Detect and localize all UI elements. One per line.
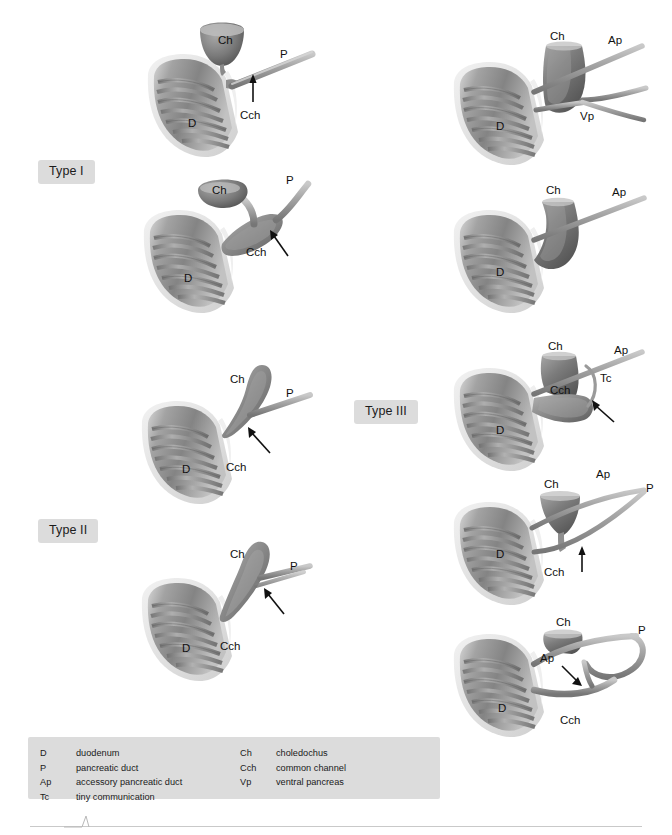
duodenum-illustration bbox=[148, 54, 238, 157]
label-cch: Cch bbox=[240, 109, 260, 121]
legend-item: Dduodenum bbox=[40, 746, 182, 761]
type-badge-3: Type III bbox=[354, 400, 418, 424]
panel-type3-c: Ch Ap Tc Cch D bbox=[446, 336, 661, 468]
pointer-arrow bbox=[270, 230, 288, 256]
panel-type2-b: Ch P Cch D bbox=[134, 528, 329, 683]
label-d: D bbox=[496, 266, 504, 278]
legend-item: Chcholedochus bbox=[240, 746, 346, 761]
label-d: D bbox=[496, 424, 504, 436]
label-cch: Cch bbox=[550, 384, 570, 396]
anatomical-figure: Type I Type II Type III bbox=[0, 0, 672, 835]
pancreatic-duct bbox=[276, 184, 308, 220]
caret-mark-icon bbox=[62, 814, 102, 828]
label-ap: Ap bbox=[614, 344, 628, 356]
label-p: P bbox=[286, 387, 294, 399]
duodenum-illustration bbox=[454, 368, 544, 471]
legend-abbr: Vp bbox=[240, 775, 276, 790]
label-ch: Ch bbox=[548, 340, 563, 352]
label-ap: Ap bbox=[596, 468, 610, 480]
pointer-arrow bbox=[248, 427, 270, 453]
panel-type3-e: Ch P Ap Cch D bbox=[446, 606, 668, 734]
legend-column-left: Dduodenum Ppancreatic duct Apaccessory p… bbox=[40, 746, 182, 804]
legend-item: Tctiny communication bbox=[40, 790, 182, 805]
legend-item: Apaccessory pancreatic duct bbox=[40, 775, 182, 790]
duodenum-illustration bbox=[144, 210, 234, 313]
legend-abbr: P bbox=[40, 761, 76, 776]
legend-term: choledochus bbox=[276, 746, 328, 761]
label-d: D bbox=[182, 463, 190, 475]
label-cch: Cch bbox=[544, 566, 564, 578]
label-ch: Ch bbox=[544, 478, 559, 490]
legend-item: Cchcommon channel bbox=[240, 761, 346, 776]
legend-panel: Dduodenum Ppancreatic duct Apaccessory p… bbox=[28, 737, 440, 799]
pointer-arrow bbox=[264, 588, 284, 614]
duodenum-illustration bbox=[142, 401, 232, 504]
legend-item: Vpventral pancreas bbox=[240, 775, 346, 790]
panel-type2-a: Ch P Cch D bbox=[134, 355, 329, 505]
label-p: P bbox=[638, 624, 646, 636]
label-ch: Ch bbox=[556, 616, 571, 628]
duodenum-illustration bbox=[454, 634, 544, 737]
label-vp: Vp bbox=[580, 110, 594, 122]
label-d: D bbox=[188, 117, 196, 129]
legend-term: common channel bbox=[276, 761, 346, 776]
label-p: P bbox=[290, 560, 298, 572]
label-cch: Cch bbox=[246, 246, 266, 258]
legend-term: duodenum bbox=[76, 746, 119, 761]
legend-abbr: Tc bbox=[40, 790, 76, 805]
label-ch: Ch bbox=[218, 34, 233, 46]
label-d: D bbox=[496, 120, 504, 132]
label-cch: Cch bbox=[560, 714, 580, 726]
label-ap: Ap bbox=[612, 186, 626, 198]
legend-term: pancreatic duct bbox=[76, 761, 138, 776]
panel-type1-b: Ch P Cch D bbox=[136, 172, 326, 317]
legend-item: Ppancreatic duct bbox=[40, 761, 182, 776]
label-ch: Ch bbox=[230, 548, 245, 560]
label-ch: Ch bbox=[546, 184, 561, 196]
legend-abbr: Ap bbox=[40, 775, 76, 790]
pancreatic-duct bbox=[232, 54, 312, 86]
legend-abbr: D bbox=[40, 746, 76, 761]
panel-type3-b: Ch Ap D bbox=[446, 176, 661, 312]
duodenum-illustration bbox=[142, 578, 232, 681]
label-ch: Ch bbox=[212, 184, 227, 196]
panel-type1-a: Ch P Cch D bbox=[140, 22, 325, 162]
legend-term: accessory pancreatic duct bbox=[76, 775, 182, 790]
panel-type3-a: Ch Ap Vp D bbox=[446, 24, 661, 164]
label-p: P bbox=[286, 174, 294, 186]
pointer-arrow bbox=[562, 666, 582, 686]
legend-abbr: Cch bbox=[240, 761, 276, 776]
label-cch: Cch bbox=[220, 640, 240, 652]
label-tc: Tc bbox=[600, 372, 612, 384]
pointer-arrow bbox=[592, 400, 614, 422]
label-d: D bbox=[184, 272, 192, 284]
type-badge-1: Type I bbox=[38, 160, 95, 184]
pointer-arrow bbox=[578, 546, 585, 572]
legend-term: ventral pancreas bbox=[276, 775, 344, 790]
legend-abbr: Ch bbox=[240, 746, 276, 761]
label-ap: Ap bbox=[540, 652, 554, 664]
duodenum-illustration bbox=[454, 62, 544, 165]
type-badge-2: Type II bbox=[38, 519, 98, 543]
panel-type3-d: Ch Ap P Cch D bbox=[446, 466, 664, 606]
label-p: P bbox=[280, 48, 288, 60]
legend-term: tiny communication bbox=[76, 790, 155, 805]
choledochus-dilated bbox=[220, 542, 270, 622]
label-cch: Cch bbox=[226, 461, 246, 473]
label-ap: Ap bbox=[608, 34, 622, 46]
label-p: P bbox=[646, 482, 654, 494]
duodenum-illustration bbox=[454, 210, 544, 313]
label-ch: Ch bbox=[230, 373, 245, 385]
label-d: D bbox=[496, 548, 504, 560]
label-d: D bbox=[182, 642, 190, 654]
label-d: D bbox=[498, 702, 506, 714]
label-ch: Ch bbox=[550, 30, 565, 42]
legend-column-right: Chcholedochus Cchcommon channel Vpventra… bbox=[240, 746, 346, 790]
bottom-divider bbox=[30, 826, 642, 827]
